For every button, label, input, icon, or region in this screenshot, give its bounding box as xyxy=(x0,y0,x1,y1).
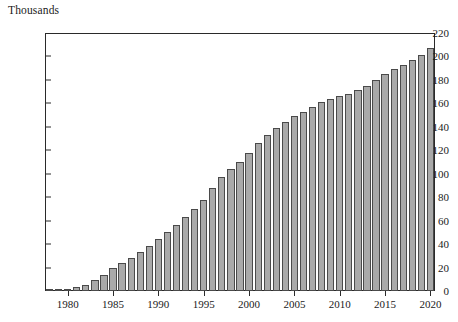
x-tick-mark xyxy=(249,291,250,296)
bar xyxy=(418,55,425,291)
bar xyxy=(173,225,180,291)
bar xyxy=(109,268,116,291)
x-tick-label: 1995 xyxy=(193,298,215,310)
y-tick-mark xyxy=(45,126,51,127)
x-tick-label: 1990 xyxy=(147,298,169,310)
x-tick-label: 1980 xyxy=(57,298,79,310)
bar xyxy=(82,285,89,291)
bar xyxy=(372,80,379,291)
bar xyxy=(291,116,298,291)
x-tick-mark xyxy=(430,291,431,296)
bar xyxy=(55,289,62,291)
y-tick-label: 200 xyxy=(433,50,450,62)
y-tick-label: 220 xyxy=(433,27,450,39)
bar xyxy=(327,99,334,291)
bar xyxy=(91,280,98,291)
bar xyxy=(354,90,361,291)
bar xyxy=(391,69,398,291)
y-tick-label: 180 xyxy=(433,74,450,86)
y-tick-label: 60 xyxy=(438,215,449,227)
bar xyxy=(236,162,243,291)
y-tick-mark xyxy=(45,197,51,198)
bar xyxy=(182,217,189,291)
y-tick-mark xyxy=(45,267,51,268)
bar xyxy=(309,107,316,291)
x-tick-mark xyxy=(113,291,114,296)
bar xyxy=(363,86,370,291)
x-tick-label: 2005 xyxy=(283,298,305,310)
y-tick-mark xyxy=(45,220,51,221)
bar xyxy=(128,258,135,291)
bar xyxy=(318,102,325,291)
y-tick-label: 140 xyxy=(433,121,450,133)
x-tick-label: 1985 xyxy=(102,298,124,310)
x-tick-label: 2015 xyxy=(374,298,396,310)
bar xyxy=(200,200,207,291)
y-tick-mark xyxy=(45,79,51,80)
y-tick-label: 0 xyxy=(444,285,450,297)
bar xyxy=(100,275,107,291)
bar xyxy=(255,143,262,291)
bar xyxy=(146,246,153,291)
y-tick-label: 40 xyxy=(438,238,449,250)
bar xyxy=(137,252,144,291)
y-tick-label: 20 xyxy=(438,262,449,274)
bar xyxy=(282,122,289,291)
y-tick-mark xyxy=(45,56,51,57)
bar xyxy=(400,65,407,291)
x-tick-mark xyxy=(68,291,69,296)
x-tick-mark xyxy=(204,291,205,296)
bar xyxy=(209,188,216,291)
bar-chart: Thousands 020406080100120140160180200220… xyxy=(0,0,458,322)
bar xyxy=(164,232,171,291)
plot-area xyxy=(45,33,435,291)
bar xyxy=(191,209,198,291)
bar xyxy=(218,177,225,291)
x-tick-label: 2000 xyxy=(238,298,260,310)
y-axis xyxy=(0,0,45,322)
x-tick-mark xyxy=(385,291,386,296)
bar xyxy=(336,96,343,291)
bar xyxy=(245,153,252,291)
y-tick-label: 120 xyxy=(433,144,450,156)
bar xyxy=(264,135,271,291)
bar xyxy=(381,74,388,291)
x-tick-mark xyxy=(340,291,341,296)
y-tick-mark xyxy=(45,103,51,104)
y-tick-mark xyxy=(45,244,51,245)
y-tick-label: 80 xyxy=(438,191,449,203)
bar xyxy=(118,263,125,291)
x-tick-label: 2020 xyxy=(419,298,441,310)
bar xyxy=(46,289,53,291)
x-tick-label: 2010 xyxy=(329,298,351,310)
y-tick-mark xyxy=(45,150,51,151)
x-tick-mark xyxy=(158,291,159,296)
y-tick-label: 160 xyxy=(433,97,450,109)
y-tick-mark xyxy=(45,173,51,174)
x-tick-mark xyxy=(294,291,295,296)
bar xyxy=(273,128,280,291)
y-tick-label: 100 xyxy=(433,168,450,180)
bar xyxy=(300,112,307,291)
bar xyxy=(155,239,162,291)
bar xyxy=(345,94,352,291)
bar xyxy=(409,60,416,291)
bar xyxy=(73,287,80,291)
bar xyxy=(227,169,234,291)
